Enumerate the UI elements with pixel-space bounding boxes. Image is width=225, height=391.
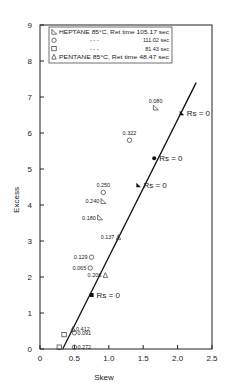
point-label: 0.080 <box>149 98 163 104</box>
circle-marker-icon <box>101 190 105 194</box>
half-triangle-marker-icon <box>101 199 106 204</box>
y-tick-label: 9 <box>28 21 33 30</box>
y-tick-label: 4 <box>28 201 33 210</box>
x-tick-label: 2.0 <box>172 354 184 363</box>
legend-ditto: - - - <box>90 37 99 43</box>
rs-annotation: Rs = 0 <box>97 291 121 300</box>
y-axis: 0123456789 <box>28 21 44 354</box>
filled-marker-icon <box>136 183 141 188</box>
circle-marker-icon <box>127 138 131 142</box>
y-tick-label: 8 <box>28 57 33 66</box>
legend-entry: HEPTANE 85°C, Ret time 105.17 sec <box>59 29 169 35</box>
half-triangle-marker-icon <box>98 215 103 220</box>
rs-annotation: Rs = 0 <box>143 181 167 190</box>
legend-entry: PENTANE 85°C, Ret time 48.47 sec <box>59 54 169 60</box>
point-label: 0.322 <box>123 130 137 136</box>
point-label: 0.137 <box>101 234 115 240</box>
filled-marker-icon <box>152 156 156 160</box>
legend-ditto: - - - <box>90 46 99 52</box>
x-tick-label: 0 <box>38 354 43 363</box>
triangle-marker-icon <box>103 273 107 278</box>
x-axis: 00.51.01.52.02.5 <box>38 345 218 363</box>
legend: HEPTANE 85°C, Ret time 105.17 sec- - -11… <box>49 27 172 63</box>
y-axis-label: Excess <box>12 187 21 213</box>
x-axis-label: Skew <box>94 373 114 382</box>
point-label: 0.129 <box>74 254 88 260</box>
rs-annotation: Rs = 0 <box>159 154 183 163</box>
legend-entry: 111.02 sec <box>143 37 169 43</box>
point-label: 0.240 <box>86 198 100 204</box>
x-tick-label: 1.0 <box>103 354 115 363</box>
circle-marker-icon <box>88 266 92 270</box>
scatter-chart: 0123456789 00.51.01.52.02.5 Skew Excess … <box>0 0 225 391</box>
data-points: 0.0800.2400.180Rs = 00.3220.2500.1290.06… <box>57 98 211 350</box>
y-tick-label: 2 <box>28 273 33 282</box>
plot-frame <box>40 25 212 349</box>
y-tick-label: 0 <box>28 345 33 354</box>
point-label: 0.180 <box>82 215 96 221</box>
point-label: 0.412 <box>76 326 90 332</box>
y-tick-label: 5 <box>28 165 33 174</box>
half-triangle-marker-icon <box>153 105 158 110</box>
x-tick-label: 0.5 <box>69 354 81 363</box>
point-label: 0.250 <box>96 182 110 188</box>
legend-entry: 81.43 sec <box>145 46 169 52</box>
filled-marker-icon <box>90 293 94 297</box>
y-tick-label: 1 <box>28 309 33 318</box>
circle-marker-icon <box>89 255 93 259</box>
y-tick-label: 7 <box>28 93 33 102</box>
rs-annotation: Rs = 0 <box>187 109 211 118</box>
x-tick-label: 2.5 <box>206 354 218 363</box>
point-label: 0.206 <box>88 272 102 278</box>
y-tick-label: 3 <box>28 237 33 246</box>
square-marker-icon <box>62 332 66 336</box>
point-label: 0.065 <box>72 265 86 271</box>
point-label: 0.272 <box>77 344 91 350</box>
x-tick-label: 1.5 <box>138 354 150 363</box>
y-tick-label: 6 <box>28 129 33 138</box>
